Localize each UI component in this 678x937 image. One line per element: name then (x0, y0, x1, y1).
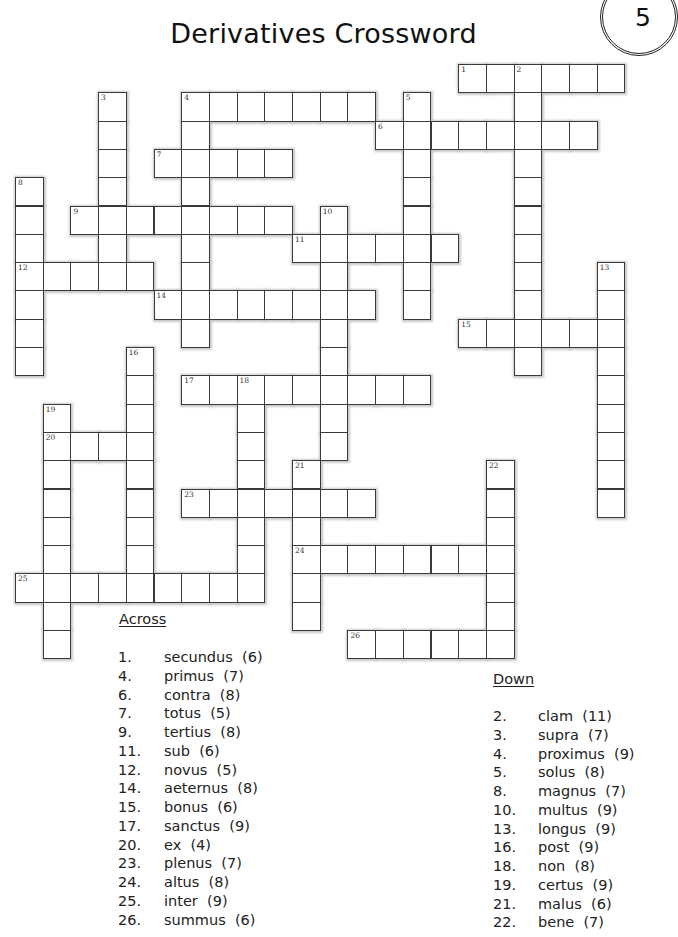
grid-cell-face (541, 64, 570, 93)
clue-number: 4. (118, 669, 132, 684)
clue-number-label: 13 (600, 264, 610, 272)
grid-cell-face: 14 (154, 290, 183, 319)
grid-cell-face (209, 489, 238, 518)
grid-cell-face: 13 (597, 262, 626, 291)
grid-cell-face (320, 262, 349, 291)
grid-cell-face (43, 573, 72, 602)
clue-number: 19. (493, 878, 516, 893)
grid-cell-face (237, 404, 266, 433)
grid-cell-face (181, 319, 210, 348)
clue-number-label: 16 (129, 349, 139, 357)
grid-cell-face (486, 630, 515, 659)
across-heading: Across (119, 611, 166, 627)
grid-cell-face (320, 347, 349, 376)
clue-number-label: 3 (101, 94, 106, 102)
grid-cell-face (70, 262, 99, 291)
grid-cell-face (597, 290, 626, 319)
grid-cell-face (237, 206, 266, 235)
grid-cell-face (375, 545, 404, 574)
grid-cell-face (43, 517, 72, 546)
grid-cell-face: 15 (458, 319, 487, 348)
grid-cell-face (347, 545, 376, 574)
clue-text: longus (9) (538, 822, 616, 837)
clue-number-label: 14 (157, 292, 167, 300)
grid-cell-face (514, 347, 543, 376)
clue-number: 25. (118, 894, 141, 909)
grid-cell-face (486, 489, 515, 518)
grid-cell-face (569, 64, 598, 93)
clue-number: 10. (493, 803, 516, 818)
clue-number: 7. (118, 706, 132, 721)
grid-cell-face (292, 517, 321, 546)
clue-number: 12. (118, 763, 141, 778)
grid-cell-face (486, 545, 515, 574)
grid-cell-face (403, 206, 432, 235)
grid-cell-face: 1 (458, 64, 487, 93)
grid-cell-face (209, 375, 238, 404)
grid-cell-face (403, 121, 432, 150)
clue-text: secundus (6) (164, 650, 263, 665)
grid-cell-face (209, 290, 238, 319)
grid-cell-face (292, 290, 321, 319)
clue-text: post (9) (538, 840, 599, 855)
grid-cell-face (320, 432, 349, 461)
clue-number-label: 20 (46, 434, 56, 442)
clue-text: clam (11) (538, 709, 612, 724)
grid-cell-face (237, 290, 266, 319)
grid-cell-face (514, 149, 543, 178)
grid-cell-face: 9 (70, 206, 99, 235)
grid-cell-face (486, 602, 515, 631)
grid-cell-face (126, 573, 155, 602)
clue-number-label: 5 (406, 94, 411, 102)
grid-cell-face (209, 92, 238, 121)
clue-number-label: 2 (517, 66, 522, 74)
clue-number-label: 22 (489, 462, 499, 470)
grid-cell-face (431, 545, 460, 574)
grid-cell-face (126, 460, 155, 489)
grid-cell-face (514, 121, 543, 150)
grid-cell-face (237, 517, 266, 546)
clue-text: contra (8) (164, 688, 240, 703)
grid-cell-face: 4 (181, 92, 210, 121)
grid-cell-face (43, 262, 72, 291)
grid-cell-face (126, 404, 155, 433)
grid-cell-face (126, 489, 155, 518)
grid-cell-face (98, 234, 127, 263)
grid-cell-face (514, 290, 543, 319)
clue-text: solus (8) (538, 765, 605, 780)
grid-cell-face: 23 (181, 489, 210, 518)
grid-cell-face (597, 432, 626, 461)
grid-cell-face: 3 (98, 92, 127, 121)
grid-cell-face (126, 517, 155, 546)
clue-number-label: 25 (18, 575, 28, 583)
clue-number: 21. (493, 897, 516, 912)
grid-cell-face (347, 290, 376, 319)
clue-number: 6. (118, 688, 132, 703)
grid-cell-face (292, 92, 321, 121)
grid-cell-face (15, 234, 44, 263)
clue-number-label: 18 (240, 377, 250, 385)
grid-cell-face (320, 92, 349, 121)
grid-cell-face (43, 489, 72, 518)
grid-cell-face (514, 234, 543, 263)
grid-cell-face (98, 206, 127, 235)
clue-number-label: 15 (461, 321, 471, 329)
clue-number: 4. (493, 747, 507, 762)
grid-cell-face (320, 545, 349, 574)
down-heading: Down (493, 671, 534, 687)
grid-cell-face (569, 319, 598, 348)
clue-text: certus (9) (538, 878, 613, 893)
grid-cell-face (154, 206, 183, 235)
clue-text: altus (8) (164, 875, 229, 890)
clue-number-label: 19 (46, 406, 56, 414)
clue-text: totus (5) (164, 706, 231, 721)
grid-cell-face: 6 (375, 121, 404, 150)
grid-cell-face (597, 404, 626, 433)
grid-cell-face (98, 149, 127, 178)
grid-cell-face: 16 (126, 347, 155, 376)
grid-cell-face (320, 404, 349, 433)
clue-text: sanctus (9) (164, 819, 250, 834)
clue-number-label: 26 (350, 632, 360, 640)
grid-cell-face (514, 319, 543, 348)
clue-number-label: 6 (378, 123, 383, 131)
